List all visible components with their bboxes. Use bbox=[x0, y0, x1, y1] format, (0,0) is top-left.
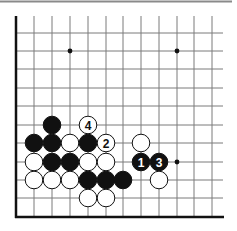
black-stone bbox=[25, 134, 43, 152]
white-stone-move-2: 2 bbox=[97, 134, 115, 152]
black-stone bbox=[79, 134, 97, 152]
white-stone-icon bbox=[79, 153, 97, 171]
black-stone-icon bbox=[43, 116, 61, 134]
white-stone-icon bbox=[61, 134, 79, 152]
black-stone-icon bbox=[43, 134, 61, 152]
white-stone-icon bbox=[132, 134, 150, 152]
black-stone bbox=[97, 171, 115, 189]
black-stone-icon bbox=[79, 171, 97, 189]
black-stone-icon bbox=[43, 153, 61, 171]
white-stone-icon bbox=[150, 171, 168, 189]
white-stone-icon bbox=[79, 189, 97, 207]
black-stone-icon bbox=[114, 171, 132, 189]
black-stone bbox=[43, 153, 61, 171]
white-stone-icon bbox=[97, 153, 115, 171]
white-stone bbox=[79, 189, 97, 207]
white-stone bbox=[150, 171, 168, 189]
star-point-icon bbox=[175, 160, 180, 165]
white-stone bbox=[97, 153, 115, 171]
black-stone bbox=[114, 171, 132, 189]
white-stone-icon bbox=[43, 171, 61, 189]
white-stone-icon bbox=[61, 171, 79, 189]
black-stone bbox=[43, 134, 61, 152]
star-point-icon bbox=[68, 49, 73, 54]
white-stone bbox=[61, 171, 79, 189]
black-stone-icon bbox=[61, 153, 79, 171]
move-number-label: 2 bbox=[103, 137, 110, 151]
move-number-label: 3 bbox=[156, 156, 163, 170]
white-stone-icon bbox=[97, 189, 115, 207]
black-stone-icon bbox=[25, 134, 43, 152]
white-stone-icon bbox=[25, 153, 43, 171]
black-stone bbox=[61, 153, 79, 171]
black-stone-icon bbox=[97, 171, 115, 189]
move-number-label: 1 bbox=[138, 156, 145, 170]
black-stone-move-3: 3 bbox=[150, 153, 168, 171]
black-stone bbox=[79, 171, 97, 189]
move-number-label: 4 bbox=[85, 119, 92, 133]
white-stone bbox=[132, 134, 150, 152]
white-stone-icon bbox=[25, 171, 43, 189]
white-stone bbox=[25, 171, 43, 189]
stones-layer: 4213 bbox=[25, 116, 168, 207]
white-stone bbox=[43, 171, 61, 189]
white-stone bbox=[61, 134, 79, 152]
white-stone bbox=[97, 189, 115, 207]
star-point-icon bbox=[175, 49, 180, 54]
black-stone-move-1: 1 bbox=[132, 153, 150, 171]
black-stone-icon bbox=[79, 134, 97, 152]
black-stone bbox=[43, 116, 61, 134]
go-board-diagram: 4213 bbox=[0, 0, 237, 231]
white-stone bbox=[25, 153, 43, 171]
white-stone bbox=[79, 153, 97, 171]
white-stone-move-4: 4 bbox=[79, 116, 97, 134]
